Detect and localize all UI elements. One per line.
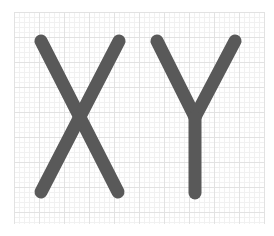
graph-paper-canvas: X Y — [0, 0, 274, 236]
xy-letters-drawing: X Y — [0, 0, 274, 236]
